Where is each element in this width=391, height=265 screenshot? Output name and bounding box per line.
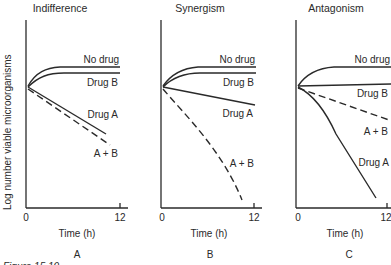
label-a-plus-b: A + B [230, 158, 255, 169]
label-no-drug: No drug [83, 54, 119, 65]
figure-canvas: Log number viable microorganisms Indiffe… [0, 0, 391, 265]
x-axis-label: Time (h) [191, 228, 228, 239]
curve-no-drug [298, 67, 391, 86]
label-drug-a: Drug A [87, 109, 118, 120]
label-a-plus-b: A + B [94, 148, 119, 159]
x-axis-label: Time (h) [327, 228, 364, 239]
x-tick-label-12: 12 [380, 212, 391, 223]
panel-letter: B [207, 249, 214, 260]
label-drug-b: Drug B [87, 77, 118, 88]
label-a-plus-b: A + B [364, 126, 389, 137]
label-no-drug: No drug [219, 54, 255, 65]
figure-caption: Figure 15.10 [3, 261, 60, 265]
x-tick-label-12: 12 [248, 212, 260, 223]
panel-synergism: Synergism 0 12 Time (h) B No drug Drug B… [159, 2, 262, 260]
x-tick-label-0: 0 [23, 212, 29, 223]
label-no-drug: No drug [354, 54, 390, 65]
x-tick-label-12: 12 [114, 212, 126, 223]
panel-title: Indifference [33, 2, 88, 14]
label-drug-a: Drug A [222, 108, 253, 119]
panel-antagonism: Antagonism 0 12 Time (h) C No drug Drug … [295, 2, 391, 260]
panel-letter: A [74, 249, 81, 260]
x-axis-label: Time (h) [59, 228, 96, 239]
x-tick-label-0: 0 [295, 212, 301, 223]
panel-indifference: Indifference 0 12 Time (h) A No drug Dru… [23, 2, 128, 260]
curve-a-plus-b [163, 89, 242, 200]
label-drug-b: Drug B [223, 77, 254, 88]
label-drug-b: Drug B [357, 88, 388, 99]
curve-drug-a [163, 87, 255, 105]
panel-title: Synergism [175, 2, 225, 14]
panel-letter: C [345, 249, 352, 260]
curve-drug-b [298, 84, 391, 86]
y-axis-label: Log number viable microorganisms [2, 54, 13, 210]
label-drug-a: Drug A [358, 157, 389, 168]
panel-title: Antagonism [308, 2, 364, 14]
curve-drug-a [298, 87, 376, 198]
x-tick-label-0: 0 [159, 212, 165, 223]
